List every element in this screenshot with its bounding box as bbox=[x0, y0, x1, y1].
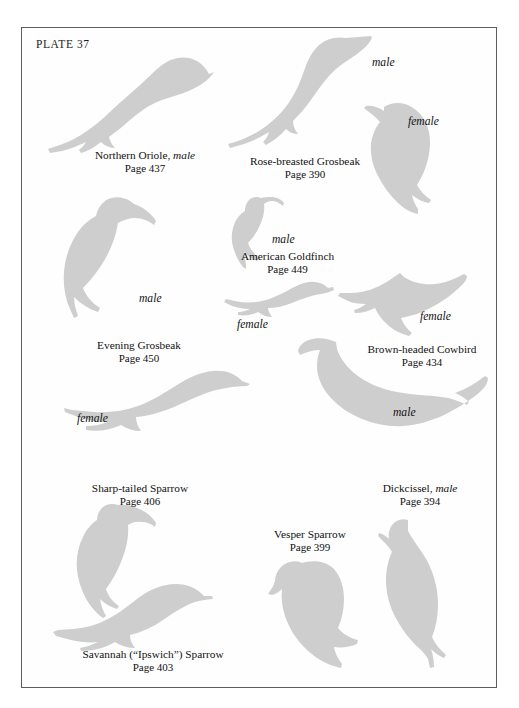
species-name: Savannah (“Ipswich”) Sparrow bbox=[44, 648, 262, 661]
species-page: Page 406 bbox=[60, 495, 220, 508]
sex-label-cowbird-female: female bbox=[420, 310, 451, 323]
caption-evening-grosbeak: Evening Grosbeak Page 450 bbox=[60, 339, 218, 364]
bird-northern-oriole-male bbox=[48, 52, 214, 158]
species-page: Page 450 bbox=[60, 352, 218, 365]
species-name: Northern Oriole, bbox=[95, 149, 173, 161]
caption-sharp-tailed-sparrow: Sharp-tailed Sparrow Page 406 bbox=[60, 482, 220, 507]
species-page: Page 403 bbox=[44, 661, 262, 674]
species-name: Evening Grosbeak bbox=[60, 339, 218, 352]
sex-label-goldfinch-male: male bbox=[272, 233, 295, 246]
bird-rose-breasted-grosbeak-male bbox=[228, 36, 372, 148]
sex-label-evening-grosbeak-female: female bbox=[77, 412, 108, 425]
sex-label-evening-grosbeak-male: male bbox=[139, 292, 162, 305]
sex-label-goldfinch-female: female bbox=[237, 318, 268, 331]
species-page: Page 394 bbox=[350, 495, 490, 508]
bird-savannah-sparrow bbox=[53, 583, 213, 651]
bird-brown-headed-cowbird-female bbox=[338, 272, 467, 339]
species-name: Dickcissel, bbox=[383, 482, 436, 494]
sex-label-cowbird-male: male bbox=[393, 406, 416, 419]
species-sex: male bbox=[435, 482, 457, 494]
species-page: Page 399 bbox=[240, 541, 380, 554]
species-name: American Goldfinch bbox=[205, 250, 370, 263]
bird-american-goldfinch-female bbox=[224, 281, 334, 318]
plate-page: PLATE 37 Northern Oriole, male Page 437 … bbox=[0, 0, 519, 708]
bird-dickcissel-male bbox=[378, 516, 456, 668]
species-name: Vesper Sparrow bbox=[240, 528, 380, 541]
species-name: Sharp-tailed Sparrow bbox=[60, 482, 220, 495]
species-sex: male bbox=[173, 149, 195, 161]
species-page: Page 437 bbox=[70, 162, 220, 175]
caption-northern-oriole: Northern Oriole, male Page 437 bbox=[70, 149, 220, 174]
caption-savannah-sparrow: Savannah (“Ipswich”) Sparrow Page 403 bbox=[44, 648, 262, 673]
sex-label-rose-grosbeak-male: male bbox=[372, 56, 395, 69]
caption-vesper-sparrow: Vesper Sparrow Page 399 bbox=[240, 528, 380, 553]
caption-dickcissel: Dickcissel, male Page 394 bbox=[350, 482, 490, 507]
sex-label-rose-grosbeak-female: female bbox=[408, 115, 439, 128]
bird-vesper-sparrow bbox=[268, 560, 360, 668]
plate-title: PLATE 37 bbox=[36, 38, 90, 50]
